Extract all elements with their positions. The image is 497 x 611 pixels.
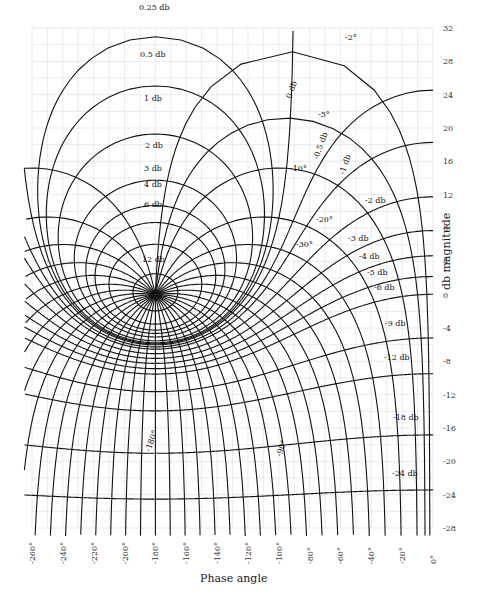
- x-axis-title: Phase angle: [200, 572, 267, 585]
- contour-label: -180°: [143, 429, 159, 453]
- y-tick-label: -8: [443, 357, 451, 366]
- y-tick-label: 24: [443, 91, 453, 100]
- y-tick-label: 0: [443, 291, 448, 300]
- x-tick-label: -80°: [306, 547, 315, 564]
- y-axis-title: db magnitude: [440, 213, 453, 290]
- contour-line: [155, 52, 429, 536]
- x-tick-label: -260°: [28, 542, 37, 564]
- contour-label: -2°: [345, 33, 357, 42]
- x-tick-label: -200°: [121, 542, 130, 564]
- contour-label: -5°: [318, 110, 330, 119]
- contour-label: -5 db: [367, 268, 388, 277]
- contour-label: -6 db: [374, 283, 395, 292]
- contour-label: -4 db: [359, 252, 380, 261]
- x-tick-label: -60°: [336, 547, 345, 564]
- contour-label: -9 db: [385, 319, 406, 328]
- nichols-chart: -260°-240°-220°-200°-180°-160°-140°-120°…: [0, 0, 497, 611]
- y-tick-label: 16: [443, 157, 453, 166]
- contour-label: 12 db: [142, 255, 165, 264]
- y-tick-label: 32: [443, 24, 453, 33]
- contour-label: 4 db: [144, 180, 162, 189]
- contour-label: -20°: [316, 215, 333, 224]
- contour-label: -30°: [296, 240, 313, 249]
- y-tick-label: -20: [443, 457, 456, 466]
- contour-label: 3 db: [144, 164, 162, 173]
- contour-label: -12 db: [384, 353, 410, 362]
- contour-label: -18 db: [393, 413, 419, 422]
- x-tick-label: -160°: [182, 542, 191, 564]
- x-tick-label: -20°: [398, 547, 407, 564]
- x-tick-label: -240°: [59, 542, 68, 564]
- contour-label: -3 db: [348, 234, 369, 243]
- contour-label: -90°: [274, 439, 288, 458]
- x-tick-label: -120°: [244, 542, 253, 564]
- contour-label: 1 db: [144, 94, 162, 103]
- x-tick-label: 0°: [429, 555, 438, 564]
- contour-line: [156, 217, 401, 536]
- x-tick-label: -220°: [90, 542, 99, 564]
- contour-label: -24 db: [392, 469, 418, 478]
- x-tick-label: -40°: [367, 547, 376, 564]
- contour-line: [25, 374, 433, 411]
- contour-label: 0.5 db: [140, 50, 166, 59]
- x-tick-label: -140°: [213, 542, 222, 564]
- y-tick-label: 20: [443, 124, 453, 133]
- contour-label: 6 db: [144, 200, 162, 209]
- y-tick-label: 28: [443, 57, 453, 66]
- contour-label: 0 db: [284, 80, 299, 100]
- contour-label: 2 db: [145, 141, 163, 150]
- contour-label: -1 db: [337, 153, 352, 175]
- contour-label: -0.5 db: [311, 131, 329, 161]
- y-tick-label: -16: [443, 424, 456, 433]
- y-tick-label: -12: [443, 391, 456, 400]
- y-tick-label: -4: [443, 324, 451, 333]
- y-tick-label: 12: [443, 191, 453, 200]
- contour-label: -10°: [290, 164, 307, 173]
- contour-label: -2 db: [365, 196, 386, 205]
- x-tick-label: -180°: [151, 542, 160, 564]
- x-tick-label: -100°: [275, 542, 284, 564]
- y-tick-label: -24: [443, 491, 456, 500]
- y-tick-label: -28: [443, 524, 456, 533]
- contour-line: [26, 263, 155, 294]
- contour-label: 0.25 db: [139, 3, 170, 12]
